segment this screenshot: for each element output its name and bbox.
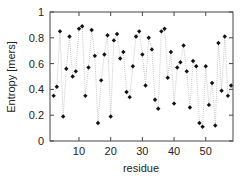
data-point [223,34,227,38]
data-point [67,34,71,38]
data-point [185,69,189,73]
data-point [134,34,138,38]
data-point [143,83,147,87]
data-point [93,54,97,58]
data-point [169,50,173,54]
x-tick-label: 50 [200,145,212,157]
data-point [188,105,192,109]
data-point [172,101,176,105]
data-point [216,41,220,45]
data-point [191,59,195,63]
data-point [96,121,100,125]
data-point [181,43,185,47]
plot-frame [50,12,233,141]
data-point [153,98,157,102]
data-point [121,50,125,54]
data-point [86,65,90,69]
y-tick-label: 0 [38,135,44,147]
series-line [54,26,232,127]
data-point [83,94,87,98]
y-tick-label: 0.4 [29,83,44,95]
y-tick-label: 0.6 [29,58,44,70]
data-point [80,24,84,28]
data-point [194,64,198,68]
data-point [77,27,81,31]
data-point [210,81,214,85]
data-point [162,27,166,31]
data-point [175,65,179,69]
x-axis-label: residue [123,162,159,174]
data-point [150,47,154,51]
data-point [156,107,160,111]
y-axis-label: Entropy [mers] [5,41,17,113]
entropy-chart: 1020304050 00.20.40.60.81 residue Entrop… [0,0,245,179]
y-tick-label: 0.8 [29,32,44,44]
data-point [64,67,68,71]
data-point [61,114,65,118]
data-point [178,60,182,64]
data-point [226,94,230,98]
data-point [58,29,62,33]
data-point [207,103,211,107]
data-point [115,32,119,36]
data-point [99,78,103,82]
data-point [127,95,131,99]
x-tick-label: 10 [73,145,85,157]
data-point [219,88,223,92]
data-point [55,85,59,89]
data-point [74,69,78,73]
data-point [124,90,128,94]
data-series [51,24,233,129]
data-point [213,123,217,127]
data-point [204,64,208,68]
data-point [137,29,141,33]
data-point [89,28,93,32]
x-axis: 1020304050 [73,12,212,157]
data-point [147,36,151,40]
data-point [102,52,106,56]
data-point [112,38,116,42]
data-point [108,114,112,118]
data-point [70,74,74,78]
x-tick-label: 30 [136,145,148,157]
y-tick-label: 1 [38,6,44,18]
data-point [105,33,109,37]
data-point [140,52,144,56]
data-point [131,64,135,68]
x-tick-label: 40 [168,145,180,157]
data-point [118,56,122,60]
x-tick-label: 20 [105,145,117,157]
y-tick-label: 0.2 [29,109,44,121]
data-point [166,76,170,80]
data-point [51,94,55,98]
